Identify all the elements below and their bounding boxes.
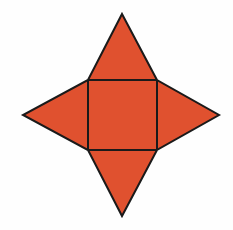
star-figure-svg <box>0 0 233 230</box>
figure-canvas <box>0 0 233 230</box>
